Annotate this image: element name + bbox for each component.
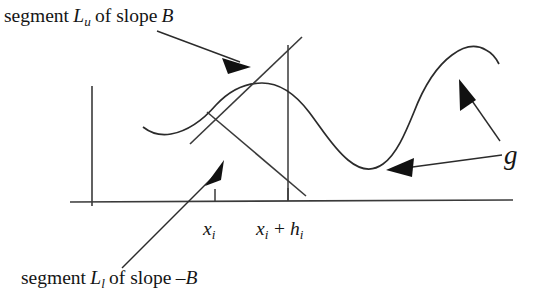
x-axis-line <box>70 200 513 202</box>
label-tick-xi-plus-hi-symbol-a: x <box>256 218 265 239</box>
arrowhead-g-peak <box>459 79 476 111</box>
label-tick-xi-plus-hi-symbol-b: h <box>290 218 300 239</box>
label-segment-lu-prefix: segment <box>4 5 69 26</box>
label-tick-xi-plus-hi-operator: + <box>273 218 286 239</box>
label-segment-lu-slope: B <box>162 5 174 26</box>
label-tick-xi-plus-hi-subscript-a: i <box>265 227 269 242</box>
label-segment-ll-middle: of slope <box>109 267 171 288</box>
leader-line-upper-label <box>157 31 240 62</box>
label-function-g: g <box>504 142 518 169</box>
label-tick-xi-subscript: i <box>212 227 216 242</box>
diagram-vector-layer <box>0 0 554 299</box>
label-segment-ll: segmentLlof slope–B <box>21 268 197 291</box>
label-segment-lu: segmentLuof slopeB <box>4 6 174 29</box>
curve-g <box>143 47 499 169</box>
label-segment-lu-symbol: L <box>73 5 84 26</box>
label-segment-ll-symbol: L <box>90 267 101 288</box>
arrowhead-lower-label <box>205 160 224 186</box>
leader-line-g-trough <box>405 155 502 168</box>
label-segment-lu-middle: of slope <box>95 5 157 26</box>
label-tick-xi: xi <box>203 219 215 242</box>
arrowhead-g-trough <box>386 158 414 177</box>
label-segment-lu-subscript: u <box>84 14 91 29</box>
segment-ll-line <box>207 112 306 196</box>
label-segment-ll-prefix: segment <box>21 267 86 288</box>
label-tick-xi-symbol: x <box>203 218 212 239</box>
label-tick-xi-plus-hi: xi+hi <box>256 219 304 242</box>
figure-canvas: segmentLuof slopeB segmentLlof slope–B g… <box>0 0 554 299</box>
label-tick-xi-plus-hi-subscript-b: i <box>300 227 304 242</box>
label-segment-ll-subscript: l <box>101 276 105 291</box>
label-segment-ll-slope: –B <box>176 267 198 288</box>
leader-line-lower-label <box>122 175 215 268</box>
